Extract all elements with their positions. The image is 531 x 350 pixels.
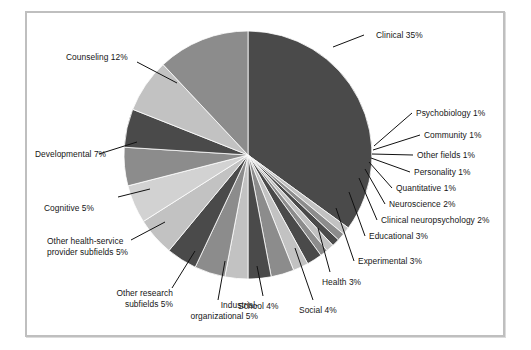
pie-label-neuroscience: Neuroscience 2% (389, 199, 489, 209)
pie-label-experimental: Experimental 3% (358, 256, 458, 266)
pie-label-community: Community 1% (424, 130, 524, 140)
pie-label-clinical-neuropsychology: Clinical neuropsychology 2% (381, 215, 531, 225)
pie-label-other-health-service-line2: provider subfields 5% (47, 247, 177, 257)
pie-label-health: Health 3% (322, 277, 402, 287)
pie-label-personality: Personality 1% (414, 167, 514, 177)
pie-label-cognitive: Cognitive 5% (44, 203, 134, 213)
pie-chart-figure: Clinical 35% Psychobiology 1% Community … (0, 0, 531, 350)
pie-label-clinical: Clinical 35% (376, 30, 466, 40)
pie-label-other-health-service-line1: Other health-service (47, 236, 177, 246)
pie-label-industrial-organizational-line1: Industrial- (158, 300, 258, 310)
pie-label-developmental: Developmental 7% (35, 149, 145, 159)
pie-label-educational: Educational 3% (369, 231, 469, 241)
pie-label-other-research-line1: Other research (68, 288, 173, 298)
pie-label-industrial-organizational-line2: organizational 5% (158, 311, 258, 321)
pie-label-other-fields: Other fields 1% (417, 150, 517, 160)
pie-label-quantitative: Quantitative 1% (396, 183, 496, 193)
pie-label-psychobiology: Psychobiology 1% (416, 108, 526, 118)
pie-label-counseling: Counseling 12% (66, 52, 176, 62)
pie-label-other-research-line2: subfields 5% (68, 299, 173, 309)
